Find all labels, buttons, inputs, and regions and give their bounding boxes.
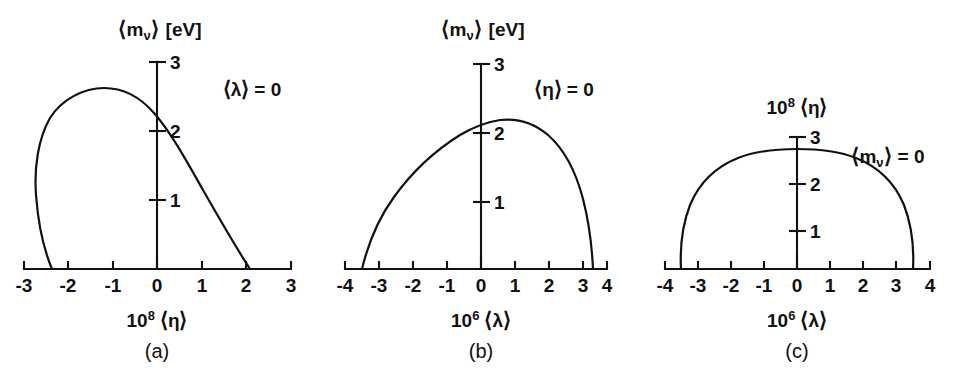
panel-a-xticklabel-1: -2 — [60, 275, 77, 296]
panel-c-xticklabel-3: -1 — [756, 275, 773, 296]
panel-b-yticklabel-1: 1 — [494, 192, 505, 213]
panel-a-x-axis-title: 108⟨η⟩ — [127, 308, 188, 331]
panel-a-xticklabel-4: 1 — [197, 275, 208, 296]
panel-b-caption: (b) — [469, 340, 493, 362]
panel-c-yticklabel-3: 3 — [810, 127, 821, 148]
panel-a-xticklabel-3: 0 — [152, 275, 163, 296]
panel-c: 108⟨η⟩ ⟨mν⟩= 0 -4 -3 -2 -1 — [640, 0, 958, 377]
panel-a: ⟨mν⟩[eV] ⟨λ⟩= 0 -3 -2 -1 0 1 2 — [0, 0, 320, 377]
panel-a-plot: ⟨mν⟩[eV] ⟨λ⟩= 0 -3 -2 -1 0 1 2 — [0, 0, 320, 377]
panel-c-xticklabel-4: 0 — [792, 275, 803, 296]
panel-b-curve — [362, 120, 593, 269]
panel-b-annotation: ⟨η⟩= 0 — [534, 77, 594, 100]
panel-c-caption: (c) — [785, 340, 808, 362]
panel-a-annotation: ⟨λ⟩= 0 — [223, 77, 282, 100]
panel-c-x-axis-title: 106⟨λ⟩ — [767, 308, 827, 331]
figure-container: ⟨mν⟩[eV] ⟨λ⟩= 0 -3 -2 -1 0 1 2 — [0, 0, 958, 377]
panel-a-yticklabel-3: 3 — [170, 52, 181, 73]
panel-c-xticklabel-0: -4 — [657, 275, 674, 296]
panel-c-xticklabel-8: 4 — [925, 275, 936, 296]
panel-b-xticklabel-3: -1 — [439, 275, 456, 296]
panel-b-x-axis-title: 106⟨λ⟩ — [451, 308, 511, 331]
panel-c-xticklabel-2: -2 — [723, 275, 740, 296]
panel-b-xticklabel-1: -3 — [371, 275, 388, 296]
panel-c-annotation: ⟨mν⟩= 0 — [851, 144, 924, 170]
panel-c-yticklabel-2: 2 — [810, 174, 821, 195]
panel-a-yticklabel-2: 2 — [170, 121, 181, 142]
panel-a-y-axis-title: ⟨mν⟩[eV] — [118, 17, 201, 43]
panel-a-yticklabel-1: 1 — [170, 190, 181, 211]
panel-b-xticklabel-4: 0 — [476, 275, 487, 296]
panel-b-xticklabel-6: 2 — [544, 275, 555, 296]
panel-c-xticklabel-1: -3 — [690, 275, 707, 296]
panel-b-xticklabel-5: 1 — [510, 275, 521, 296]
panel-b-xticklabel-0: -4 — [337, 275, 354, 296]
panel-c-xticklabel-5: 1 — [825, 275, 836, 296]
panel-c-plot: 108⟨η⟩ ⟨mν⟩= 0 -4 -3 -2 -1 — [640, 0, 958, 377]
panel-a-xticklabel-5: 2 — [241, 275, 252, 296]
panel-b-xticklabel-7: 3 — [578, 275, 589, 296]
panel-b-plot: ⟨mν⟩[eV] ⟨η⟩= 0 -4 -3 -2 -1 — [320, 0, 640, 377]
panel-b-y-axis-title: ⟨mν⟩[eV] — [441, 17, 524, 43]
panel-b-yticklabel-3: 3 — [494, 54, 505, 75]
panel-c-xticklabel-7: 3 — [891, 275, 902, 296]
panel-a-xticklabel-0: -3 — [16, 275, 33, 296]
panel-c-yticklabel-1: 1 — [810, 221, 821, 242]
panel-a-xticklabel-2: -1 — [105, 275, 122, 296]
panel-b-yticklabel-2: 2 — [494, 123, 505, 144]
panel-c-xticklabel-6: 2 — [858, 275, 869, 296]
panel-c-y-axis-title: 108⟨η⟩ — [767, 95, 828, 118]
panel-b-xticklabel-2: -2 — [405, 275, 422, 296]
panel-b: ⟨mν⟩[eV] ⟨η⟩= 0 -4 -3 -2 -1 — [320, 0, 640, 377]
panel-a-caption: (a) — [145, 340, 169, 362]
panel-b-xticklabel-8: 4 — [602, 275, 613, 296]
panel-a-xticklabel-6: 3 — [286, 275, 297, 296]
panel-a-curve — [36, 88, 250, 269]
